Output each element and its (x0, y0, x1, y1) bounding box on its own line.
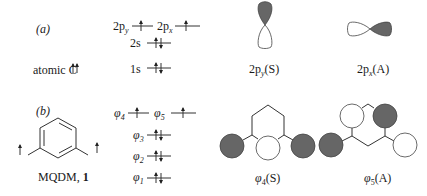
level-2py-label: 2py (113, 19, 129, 35)
orbital-phi5-icon (319, 104, 417, 157)
level-2px: 2px (157, 19, 200, 35)
level-2py: 2py (113, 19, 153, 35)
level-phi1: φ1 (133, 170, 171, 186)
level-phi3-label: φ3 (133, 128, 144, 144)
level-phi4: φ4 (114, 106, 149, 122)
atomic-c-label: atomic C (33, 63, 77, 77)
level-phi2: φ2 (133, 149, 171, 165)
level-phi1-label: φ1 (133, 170, 144, 186)
level-2s: 2s (130, 36, 171, 50)
mqdm-structure-icon (28, 118, 88, 158)
orbital-2px-label: 2px(A) (357, 62, 389, 78)
level-phi4-label: φ4 (114, 106, 125, 122)
spin-up-arrow-icon (95, 142, 99, 153)
level-1s: 1s (130, 62, 171, 76)
level-2px-label: 2px (157, 19, 173, 35)
orbital-phi4-icon (220, 105, 315, 160)
mo-diagram: (a) 2py 2px 2s 1s atomic C (0, 0, 427, 196)
spin-up-arrow-icon (18, 144, 22, 155)
molecule-label: MQDM, 1 (38, 170, 89, 184)
level-phi2-label: φ2 (133, 149, 144, 165)
panel-a-label: (a) (36, 22, 50, 36)
orbital-phi5-label: φ5(A) (364, 171, 391, 187)
orbital-2py-icon (258, 2, 272, 49)
level-1s-label: 1s (130, 62, 141, 76)
orbital-2px-icon (348, 22, 392, 36)
level-phi5: φ5 (154, 106, 196, 122)
level-phi3: φ3 (133, 128, 171, 144)
level-2s-label: 2s (130, 36, 141, 50)
orbital-2py-label: 2py(S) (249, 62, 279, 78)
panel-b-label: (b) (36, 104, 50, 118)
orbital-phi4-label: φ4(S) (255, 171, 280, 187)
level-phi5-label: φ5 (154, 106, 165, 122)
